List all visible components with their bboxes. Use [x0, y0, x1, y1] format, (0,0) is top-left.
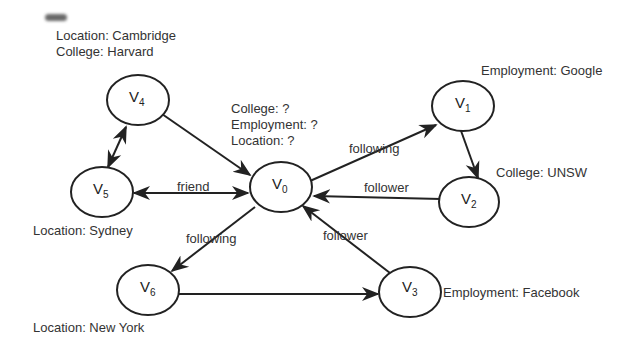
edge-label-v2-v0: follower — [364, 180, 409, 195]
annotation-v0-college: College: ? — [231, 101, 290, 117]
edge-v2-v0 — [314, 196, 441, 199]
annotation-v4-college: College: Harvard — [56, 44, 154, 60]
edge-label-friend: friend — [177, 179, 210, 194]
annotation-v4-location: Location: Cambridge — [56, 28, 176, 44]
edge-label-v3-v0: follower — [323, 228, 368, 243]
edge-label-v0-v6: following — [186, 231, 237, 246]
annotation-v0-location: Location: ? — [231, 133, 295, 149]
annotation-v6-location: Location: New York — [33, 320, 144, 336]
edge-v1-v2 — [460, 128, 478, 178]
edge-label-v0-v1: following — [349, 141, 400, 156]
annotation-v5-location: Location: Sydney — [33, 223, 133, 239]
annotation-v2-college: College: UNSW — [496, 165, 587, 181]
annotation-v0-employment: Employment: ? — [231, 117, 318, 133]
annotation-v3-employment: Employment: Facebook — [443, 285, 580, 301]
edge-v4-v5 — [108, 127, 126, 167]
annotation-v1-employment: Employment: Google — [481, 63, 602, 79]
